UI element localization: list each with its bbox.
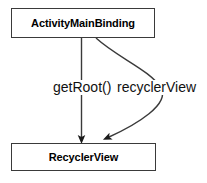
node-activity-main-binding-label: ActivityMainBinding bbox=[31, 17, 135, 29]
edge-label-recycler-view: recyclerView bbox=[116, 80, 197, 95]
node-recycler-view-label: RecyclerView bbox=[49, 151, 119, 163]
diagram-canvas: ActivityMainBinding RecyclerView getRoot… bbox=[0, 0, 207, 183]
node-recycler-view[interactable]: RecyclerView bbox=[11, 143, 156, 171]
edge-label-get-root: getRoot() bbox=[52, 80, 112, 95]
node-activity-main-binding[interactable]: ActivityMainBinding bbox=[11, 8, 155, 38]
